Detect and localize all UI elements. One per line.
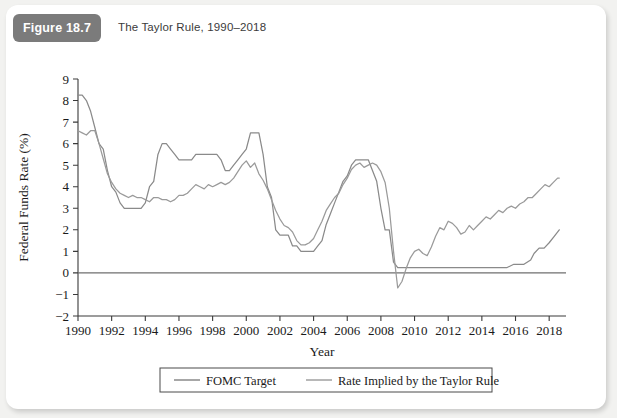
x-tick-label: 2014: [469, 323, 496, 338]
y-tick-label: 1: [63, 244, 70, 259]
figure-header: Figure 18.7 The Taylor Rule, 1990–2018: [6, 5, 606, 51]
figure-number-badge: Figure 18.7: [13, 14, 101, 42]
legend-label-2: Rate Implied by the Taylor Rule: [338, 374, 499, 388]
y-tick-label: 0: [63, 265, 70, 280]
x-tick-label: 2000: [233, 323, 259, 338]
data-series-group: [78, 95, 559, 288]
y-tick-label: 7: [63, 115, 70, 130]
y-tick-label: 2: [63, 222, 70, 237]
y-tick-label: 3: [63, 201, 70, 216]
legend-label-1: FOMC Target: [206, 374, 276, 388]
y-tick-label: 5: [63, 158, 70, 173]
figure-caption: The Taylor Rule, 1990–2018: [118, 21, 266, 33]
y-axis-title: Federal Funds Rate (%): [16, 133, 31, 262]
chart-legend: FOMC TargetRate Implied by the Taylor Ru…: [160, 368, 499, 392]
figure-card: Figure 18.7 The Taylor Rule, 1990–2018 −…: [6, 5, 606, 409]
y-tick-label: −1: [55, 287, 69, 302]
y-tick-label: 9: [63, 72, 70, 87]
x-tick-label: 1992: [99, 323, 125, 338]
x-tick-label: 2010: [402, 323, 428, 338]
chart-plot-area: −2−10123456789 1990199219941996199820002…: [6, 51, 606, 409]
y-tick-label: 8: [63, 93, 70, 108]
x-tick-label: 2006: [334, 323, 361, 338]
y-axis: −2−10123456789: [55, 72, 78, 324]
x-tick-label: 1998: [200, 323, 226, 338]
x-tick-label: 2008: [368, 323, 394, 338]
x-tick-label: 2012: [435, 323, 461, 338]
y-tick-label: −2: [55, 309, 69, 324]
x-tick-label: 2018: [536, 323, 562, 338]
x-axis-title: Year: [310, 344, 335, 359]
x-axis: 1990199219941996199820002002200420062008…: [65, 316, 566, 338]
x-tick-label: 2004: [301, 323, 328, 338]
taylor-rule-line-chart: −2−10123456789 1990199219941996199820002…: [6, 51, 606, 409]
x-tick-label: 2016: [503, 323, 530, 338]
x-tick-label: 2002: [267, 323, 293, 338]
series-line-1: [78, 95, 559, 267]
y-tick-label: 6: [63, 136, 70, 151]
y-tick-label: 4: [63, 179, 70, 194]
x-tick-label: 1996: [166, 323, 193, 338]
x-tick-label: 1990: [65, 323, 91, 338]
x-tick-label: 1994: [132, 323, 159, 338]
series-line-2: [78, 131, 559, 288]
